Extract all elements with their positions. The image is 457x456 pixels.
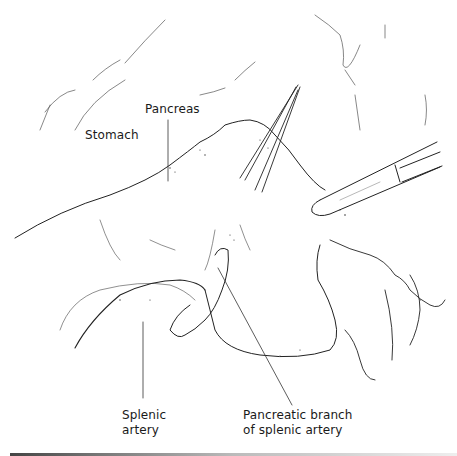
suction-tube-icon (312, 142, 442, 216)
pancreas-edge (15, 120, 325, 238)
label-stomach: Stomach (85, 128, 139, 143)
forceps-icon (240, 85, 300, 192)
artery-loop (205, 245, 337, 357)
label-pancreas: Pancreas (145, 102, 200, 117)
pancreatic-branch-leader (218, 268, 292, 405)
label-splenic-artery: Splenic artery (122, 408, 166, 438)
label-pancreatic-branch: Pancreatic branch of splenic artery (243, 408, 353, 438)
label-pancreatic-branch-line2: of splenic artery (243, 423, 353, 438)
right-tissue (330, 240, 445, 380)
stomach-outline (40, 15, 427, 130)
surgical-illustration (0, 0, 457, 456)
label-splenic-artery-line1: Splenic (122, 408, 166, 423)
artery-hook (170, 248, 228, 336)
label-pancreatic-branch-line1: Pancreatic branch (243, 408, 353, 423)
splenic-artery-curve (75, 280, 205, 348)
label-splenic-artery-line2: artery (122, 423, 166, 438)
